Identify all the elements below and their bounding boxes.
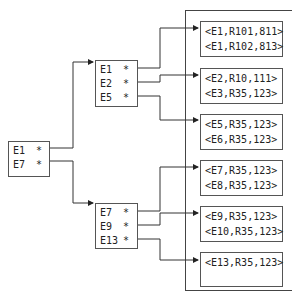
leaf-record: <E3,R35,123>: [205, 88, 277, 100]
leaf-page-5: <E9,R35,123> <E10,R35,123>: [200, 206, 283, 242]
leaf-page-6: <E13,R35,123>: [200, 252, 283, 287]
root-key-0: E1: [13, 145, 25, 157]
pointer-icon: *: [123, 235, 129, 247]
mid2-key-1: E9: [100, 221, 112, 233]
leaf-page-1: <E1,R101,811> <E1,R102,813>: [200, 21, 283, 57]
leaf-record: <E1,R101,811>: [205, 26, 283, 38]
mid2-key-0: E7: [100, 207, 112, 219]
mid-index-node-1: E1 * E2 * E5 *: [95, 60, 138, 107]
mid1-key-1: E2: [100, 78, 112, 90]
leaf-page-4: <E7,R35,123> <E8,R35,123>: [200, 160, 283, 196]
leaf-record: <E1,R102,813>: [205, 41, 283, 53]
leaf-record: <E7,R35,123>: [205, 165, 277, 177]
pointer-icon: *: [123, 78, 129, 90]
leaf-page-2: <E2,R10,111> <E3,R35,123>: [200, 68, 283, 104]
pointer-icon: *: [123, 64, 129, 76]
leaf-page-3: <E5,R35,123> <E6,R35,123>: [200, 114, 283, 150]
leaf-record: <E2,R10,111>: [205, 73, 277, 85]
leaf-record: <E8,R35,123>: [205, 180, 277, 192]
pointer-icon: *: [123, 207, 129, 219]
mid-index-node-2: E7 * E9 * E13 *: [95, 203, 138, 249]
leaf-record: <E6,R35,123>: [205, 134, 277, 146]
root-key-1: E7: [13, 159, 25, 171]
root-index-node: E1 * E7 *: [8, 141, 50, 177]
mid1-key-2: E5: [100, 92, 112, 104]
leaf-record: <E10,R35,123>: [205, 226, 283, 238]
leaf-record: <E13,R35,123>: [205, 257, 283, 269]
pointer-icon: *: [36, 145, 42, 157]
pointer-icon: *: [123, 92, 129, 104]
leaf-record: <E5,R35,123>: [205, 119, 277, 131]
leaf-record: <E9,R35,123>: [205, 211, 277, 223]
mid2-key-2: E13: [100, 235, 118, 247]
pointer-icon: *: [123, 221, 129, 233]
pointer-icon: *: [36, 159, 42, 171]
mid1-key-0: E1: [100, 64, 112, 76]
